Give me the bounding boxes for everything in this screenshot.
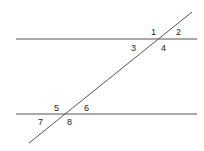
angle-label-4: 4: [161, 43, 166, 53]
angle-label-5: 5: [54, 103, 59, 113]
angle-label-3: 3: [131, 43, 136, 53]
angle-label-7: 7: [38, 117, 43, 127]
angle-label-8: 8: [67, 117, 72, 127]
angle-label-6: 6: [84, 103, 89, 113]
angle-label-1: 1: [151, 27, 156, 37]
parallel-lines-diagram: 1 2 3 4 5 6 7 8: [0, 0, 204, 151]
angle-label-2: 2: [176, 27, 181, 37]
transversal-line: [29, 12, 192, 143]
